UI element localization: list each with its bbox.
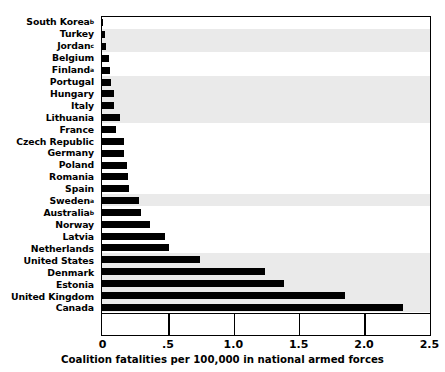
bar-row [102, 41, 430, 53]
bar [102, 280, 284, 287]
category-label: Australiab [0, 207, 98, 219]
bar [102, 209, 141, 216]
category-axis-labels: South KoreabTurkeyJordancBelgiumFinlanda… [0, 16, 98, 314]
bar [102, 173, 128, 180]
bar [102, 67, 110, 74]
x-axis-tick [299, 314, 300, 336]
category-label: Netherlands [0, 243, 98, 255]
bar [102, 197, 139, 204]
bar [102, 79, 111, 86]
category-label: Norway [0, 219, 98, 231]
bar-row [102, 207, 430, 219]
bar-row [102, 76, 430, 88]
x-axis-tick-label: 1.5 [289, 338, 309, 351]
category-label: Turkey [0, 28, 98, 40]
bar-row [102, 124, 430, 136]
bar-series [102, 17, 430, 313]
bar [102, 31, 105, 38]
bar-row [102, 100, 430, 112]
category-label: Belgium [0, 52, 98, 64]
bar-row [102, 17, 430, 29]
category-label: Hungary [0, 88, 98, 100]
category-label: Estonia [0, 278, 98, 290]
category-label: United States [0, 254, 98, 266]
category-label: United Kingdom [0, 290, 98, 302]
bar-row [102, 230, 430, 242]
bar [102, 114, 120, 121]
bar-row [102, 183, 430, 195]
bar [102, 292, 345, 299]
x-axis-title: Coalition fatalities per 100,000 in nati… [0, 354, 445, 365]
category-label: Finlanda [0, 64, 98, 76]
category-label: Spain [0, 183, 98, 195]
bar [102, 233, 165, 240]
bar-row [102, 147, 430, 159]
category-label: Poland [0, 159, 98, 171]
x-axis-tick-label: 0 [99, 338, 107, 351]
bar-row [102, 266, 430, 278]
category-label: Czech Republic [0, 135, 98, 147]
x-axis-tick [168, 314, 169, 336]
bar [102, 43, 106, 50]
bar-row [102, 171, 430, 183]
category-label: Lithuania [0, 111, 98, 123]
x-axis-tick [234, 314, 235, 336]
bar-row [102, 301, 430, 313]
bar [102, 90, 114, 97]
category-label: Latvia [0, 231, 98, 243]
bar-row [102, 218, 430, 230]
bar [102, 102, 114, 109]
x-axis-tick-label: .5 [162, 338, 174, 351]
x-axis-tick-label: 2.5 [420, 338, 440, 351]
category-label: Jordanc [0, 40, 98, 52]
x-axis-tick [364, 314, 365, 336]
x-axis-tick-label: 1.0 [224, 338, 244, 351]
x-axis-tick-labels: 0.51.01.52.02.5 [101, 338, 431, 352]
bar [102, 126, 116, 133]
category-label: Romania [0, 171, 98, 183]
x-axis-tick-band [101, 314, 431, 336]
bar [102, 256, 200, 263]
bar-row [102, 278, 430, 290]
bar-row [102, 289, 430, 301]
bar [102, 138, 124, 145]
bar [102, 304, 403, 311]
bar [102, 150, 124, 157]
bar [102, 19, 103, 26]
bar [102, 55, 109, 62]
category-label: Germany [0, 147, 98, 159]
x-axis-tick-label: 2.0 [354, 338, 374, 351]
bar [102, 268, 265, 275]
category-label: Italy [0, 99, 98, 111]
bar-row [102, 159, 430, 171]
bar-row [102, 195, 430, 207]
bar [102, 221, 150, 228]
bar [102, 244, 169, 251]
bar-row [102, 64, 430, 76]
category-label: South Koreab [0, 16, 98, 28]
bar-row [102, 53, 430, 65]
category-label: Portugal [0, 76, 98, 88]
bar [102, 185, 129, 192]
bar [102, 162, 127, 169]
category-label: Swedena [0, 195, 98, 207]
category-label: Denmark [0, 266, 98, 278]
bar-row [102, 254, 430, 266]
bar-row [102, 88, 430, 100]
bar-row [102, 135, 430, 147]
category-label: Canada [0, 302, 98, 314]
horizontal-bar-chart: South KoreabTurkeyJordancBelgiumFinlanda… [0, 0, 445, 372]
bar-row [102, 29, 430, 41]
plot-area [101, 16, 431, 314]
category-label: France [0, 123, 98, 135]
bar-row [102, 112, 430, 124]
bar-row [102, 242, 430, 254]
